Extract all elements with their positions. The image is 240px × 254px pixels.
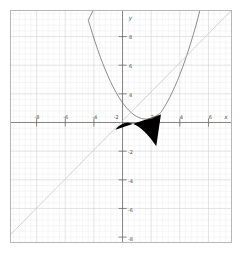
graph-figure: -8 -6 -4 -2 2 4 6 8 6 4 -2 -4 -6 -8 y x <box>0 0 240 254</box>
diagonal-line <box>11 11 231 238</box>
plot-area: -8 -6 -4 -2 2 4 6 8 6 4 -2 -4 -6 -8 y x <box>10 10 232 243</box>
curve-layer <box>11 11 231 242</box>
